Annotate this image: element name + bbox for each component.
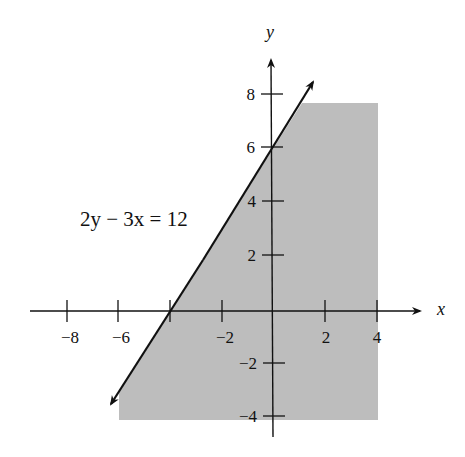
- x-axis-label: x: [436, 299, 445, 319]
- svg-text:4: 4: [248, 192, 257, 211]
- y-axis-label: y: [264, 22, 274, 42]
- svg-text:8: 8: [247, 85, 256, 104]
- svg-text:−2: −2: [216, 328, 234, 347]
- svg-text:−6: −6: [112, 328, 130, 347]
- svg-text:−8: −8: [61, 328, 79, 347]
- equation-label: 2y − 3x = 12: [80, 207, 188, 231]
- svg-text:2: 2: [322, 328, 331, 347]
- svg-text:6: 6: [247, 138, 256, 157]
- svg-text:4: 4: [373, 328, 382, 347]
- graph-canvas: −8 −6 −2 2 4 8 6 4 2 −2 −4 x y 2y − 3x =…: [0, 0, 465, 457]
- svg-text:−4: −4: [239, 407, 258, 426]
- svg-text:−2: −2: [239, 354, 257, 373]
- svg-text:2: 2: [248, 246, 257, 265]
